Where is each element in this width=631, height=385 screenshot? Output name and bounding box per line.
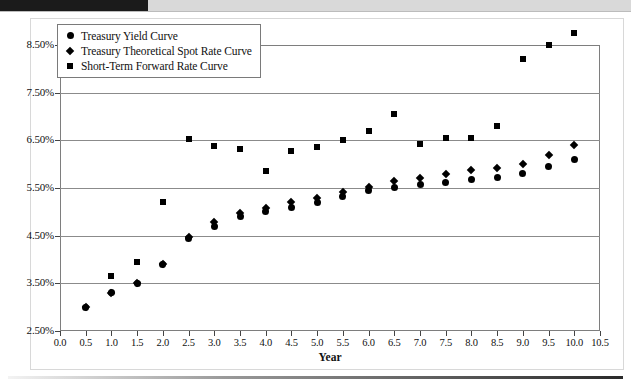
x-tick-mark	[189, 331, 190, 336]
x-tick-mark	[60, 331, 61, 336]
x-tick-mark	[446, 331, 447, 336]
legend-item-label: Treasury Yield Curve	[81, 30, 178, 42]
chart-plot-area: 2.50%3.50%4.50%5.50%6.50%7.50%8.50% 0.00…	[60, 45, 600, 331]
legend-item: Short-Term Forward Rate Curve	[64, 58, 252, 73]
square-marker-icon	[64, 63, 76, 69]
x-tick-mark	[137, 331, 138, 336]
data-point-square	[366, 128, 372, 134]
data-point-square	[288, 148, 294, 154]
scan-artifact-dark-bar	[0, 0, 148, 11]
x-tick-mark	[214, 331, 215, 336]
gridline	[60, 236, 600, 237]
data-point-square	[237, 146, 243, 152]
y-tick-label: 6.50%	[0, 133, 54, 145]
legend-item-label: Treasury Theoretical Spot Rate Curve	[81, 45, 252, 57]
circle-glyph	[67, 32, 74, 39]
x-tick-mark	[111, 331, 112, 336]
data-point-square	[134, 259, 140, 265]
x-tick-mark	[497, 331, 498, 336]
scan-artifact-hairline	[0, 11, 631, 12]
x-tick-mark	[266, 331, 267, 336]
data-point-circle	[442, 179, 449, 186]
data-point-square	[340, 137, 346, 143]
gridline	[60, 140, 600, 141]
data-point-square	[186, 136, 192, 142]
legend-item: Treasury Theoretical Spot Rate Curve	[64, 43, 252, 58]
y-tick-mark	[55, 283, 60, 284]
x-tick-mark	[369, 331, 370, 336]
square-glyph	[67, 63, 73, 69]
x-tick-mark	[86, 331, 87, 336]
gridline	[60, 93, 600, 94]
y-tick-mark	[55, 93, 60, 94]
data-point-square	[263, 168, 269, 174]
data-point-square	[443, 135, 449, 141]
x-tick-mark	[600, 331, 601, 336]
data-point-square	[494, 123, 500, 129]
legend-item-label: Short-Term Forward Rate Curve	[81, 60, 228, 72]
chart-legend: Treasury Yield CurveTreasury Theoretical…	[57, 24, 261, 78]
x-tick-mark	[549, 331, 550, 336]
x-axis-title: Year	[60, 351, 600, 363]
x-tick-mark	[343, 331, 344, 336]
legend-item: Treasury Yield Curve	[64, 28, 252, 43]
x-tick-mark	[317, 331, 318, 336]
x-tick-mark	[240, 331, 241, 336]
y-tick-label: 5.50%	[0, 181, 54, 193]
y-tick-label: 8.50%	[0, 38, 54, 50]
x-tick-label: 10.5	[582, 337, 618, 348]
data-point-square	[314, 144, 320, 150]
data-point-circle	[494, 174, 501, 181]
x-tick-mark	[420, 331, 421, 336]
data-point-square	[160, 199, 166, 205]
y-tick-mark	[55, 188, 60, 189]
diamond-marker-icon	[64, 48, 76, 54]
y-tick-label: 2.50%	[0, 324, 54, 336]
x-tick-mark	[523, 331, 524, 336]
gridline	[60, 188, 600, 189]
diamond-glyph	[66, 46, 74, 54]
y-tick-label: 3.50%	[0, 276, 54, 288]
x-tick-mark	[291, 331, 292, 336]
data-point-square	[417, 141, 423, 147]
y-tick-label: 4.50%	[0, 229, 54, 241]
gridline	[60, 283, 600, 284]
x-tick-mark	[574, 331, 575, 336]
data-point-circle	[468, 176, 475, 183]
data-point-square	[520, 56, 526, 62]
scan-artifact-bottom-edge	[8, 376, 623, 379]
y-tick-mark	[55, 140, 60, 141]
x-tick-mark	[163, 331, 164, 336]
x-tick-mark	[471, 331, 472, 336]
y-tick-label: 7.50%	[0, 86, 54, 98]
circle-marker-icon	[64, 32, 76, 39]
data-point-square	[391, 111, 397, 117]
y-tick-mark	[55, 236, 60, 237]
x-tick-mark	[394, 331, 395, 336]
data-point-square	[546, 42, 552, 48]
data-point-square	[108, 273, 114, 279]
data-point-square	[571, 30, 577, 36]
data-point-square	[468, 135, 474, 141]
data-point-square	[211, 143, 217, 149]
data-point-circle	[571, 156, 578, 163]
